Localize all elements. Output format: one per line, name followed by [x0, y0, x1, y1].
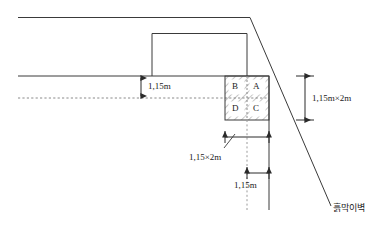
diagram-svg	[0, 0, 381, 227]
grid-cell-a-label: A	[253, 82, 260, 91]
dimension-half-width-label: 1,15m	[234, 180, 257, 190]
grid-cell-c-label: C	[253, 104, 259, 113]
dimension-total-width-label: 1,15×2m	[189, 152, 221, 162]
structure-rectangle	[152, 34, 247, 77]
grid-cell-d-label: D	[232, 104, 239, 113]
diagram-canvas: B A D C 1,15m 1,15m×2m 1,15×2m 1,15m 흙막이…	[0, 0, 381, 227]
retaining-wall-label: 흙막이벽	[333, 203, 365, 213]
dimension-total-height-label: 1,15m×2m	[312, 93, 351, 103]
dimension-half-width	[247, 167, 269, 179]
grid-cell-b-label: B	[232, 82, 238, 91]
dimension-depth-to-dashed-label: 1,15m	[148, 81, 171, 91]
